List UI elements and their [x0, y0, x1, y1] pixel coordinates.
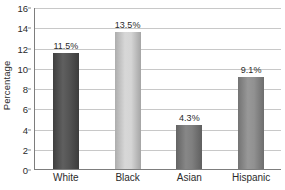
y-axis-title: Percentage: [0, 0, 14, 170]
plot-area: 11.5%13.5%4.3%9.1%: [34, 8, 281, 170]
bar-group[interactable]: 9.1%: [238, 8, 264, 169]
y-tick-mark: [28, 48, 31, 49]
y-tick-label: 12: [17, 43, 28, 54]
bar-value-label: 4.3%: [179, 113, 200, 123]
bars-layer: 11.5%13.5%4.3%9.1%: [35, 8, 281, 169]
y-tick-mark: [28, 149, 31, 150]
y-tick-label: 10: [17, 63, 28, 74]
y-tick-label: 0: [23, 165, 28, 176]
y-tick-mark: [28, 68, 31, 69]
y-axis-tick-labels: 0246810121416: [14, 8, 31, 170]
y-tick-label: 6: [23, 104, 28, 115]
y-tick-mark: [28, 8, 31, 9]
y-tick-label: 16: [17, 3, 28, 14]
x-tick-label: Hispanic: [232, 172, 270, 183]
y-tick-mark: [28, 109, 31, 110]
bar-group[interactable]: 11.5%: [53, 8, 79, 169]
y-tick-label: 4: [23, 124, 28, 135]
bar-chart: Percentage 0246810121416 11.5%13.5%4.3%9…: [0, 0, 285, 190]
x-axis-tick-labels: WhiteBlackAsianHispanic: [35, 172, 281, 188]
x-axis-line: [34, 169, 281, 170]
x-tick-label: Black: [115, 172, 139, 183]
x-tick-label: White: [53, 172, 79, 183]
bar[interactable]: [238, 77, 264, 169]
y-tick-label: 2: [23, 144, 28, 155]
bar[interactable]: [115, 32, 141, 169]
y-axis-title-text: Percentage: [2, 60, 13, 110]
y-tick-mark: [28, 129, 31, 130]
bar-value-label: 9.1%: [241, 65, 262, 75]
bar-value-label: 13.5%: [115, 20, 141, 30]
y-tick-label: 8: [23, 84, 28, 95]
y-tick-mark: [28, 170, 31, 171]
y-tick-mark: [28, 89, 31, 90]
y-tick-label: 14: [17, 23, 28, 34]
bar-group[interactable]: 4.3%: [176, 8, 202, 169]
bar[interactable]: [53, 53, 79, 169]
bar[interactable]: [176, 125, 202, 169]
x-tick-label: Asian: [177, 172, 202, 183]
y-tick-mark: [28, 28, 31, 29]
bar-value-label: 11.5%: [53, 41, 78, 51]
bar-group[interactable]: 13.5%: [115, 8, 141, 169]
